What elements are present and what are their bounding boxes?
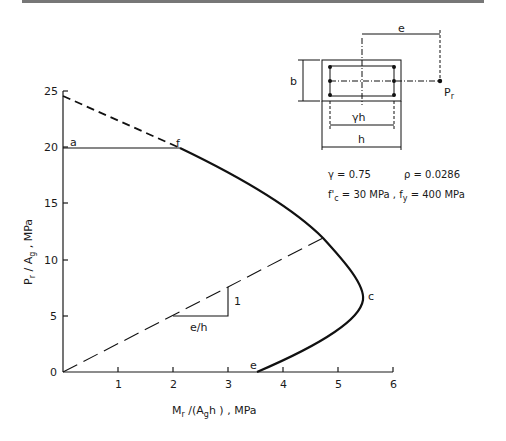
svg-text:γh: γh — [352, 111, 366, 124]
dashed-extrapolation — [63, 96, 180, 148]
svg-text:25: 25 — [44, 85, 58, 98]
x-tick-labels: 1 2 3 4 5 6 — [115, 378, 397, 391]
svg-text:20: 20 — [44, 141, 58, 154]
fc-annotation: f'c = 30 MPa , fy = 400 MPa — [328, 189, 465, 203]
svg-text:c: c — [368, 290, 374, 303]
svg-text:a: a — [70, 136, 77, 149]
svg-text:2: 2 — [170, 378, 177, 391]
svg-text:e: e — [250, 359, 257, 372]
svg-text:h: h — [358, 133, 365, 146]
svg-text:1: 1 — [234, 295, 241, 308]
svg-text:γ = 0.75: γ = 0.75 — [328, 169, 371, 180]
svg-text:6: 6 — [390, 378, 397, 391]
svg-text:10: 10 — [44, 254, 58, 267]
interaction-curve — [180, 148, 363, 372]
svg-text:3: 3 — [225, 378, 232, 391]
svg-text:5: 5 — [335, 378, 342, 391]
axes — [63, 91, 393, 372]
svg-text:b: b — [290, 75, 297, 88]
interaction-diagram: 25 20 15 10 5 0 1 2 3 4 5 6 Mr /(Agh ) ,… — [0, 0, 506, 441]
svg-text:15: 15 — [44, 197, 58, 210]
y-tick-labels: 25 20 15 10 5 0 — [44, 85, 58, 379]
eccentricity-line — [63, 238, 323, 372]
svg-text:0: 0 — [50, 366, 57, 379]
svg-text:5: 5 — [50, 310, 57, 323]
pr-label: Pr — [444, 86, 455, 101]
svg-text:e: e — [398, 22, 405, 35]
svg-text:1: 1 — [115, 378, 122, 391]
svg-text:e/h: e/h — [190, 321, 207, 334]
column-section-diagram — [298, 30, 440, 150]
x-axis-title: Mr /(Agh ) , MPa — [172, 404, 257, 419]
svg-text:ρ = 0.0286: ρ = 0.0286 — [404, 169, 460, 180]
y-axis-title: Pr / Ag , MPa — [22, 219, 37, 285]
svg-text:4: 4 — [280, 378, 287, 391]
